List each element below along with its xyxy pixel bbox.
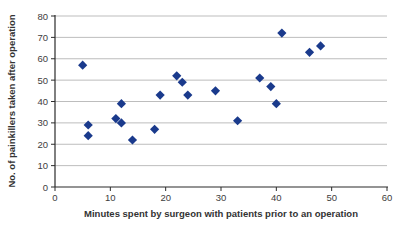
x-tick-label: 20 xyxy=(160,192,171,203)
data-point xyxy=(277,29,286,38)
data-point xyxy=(316,41,325,50)
y-tick-label: 80 xyxy=(37,11,48,22)
data-point xyxy=(272,99,281,108)
x-tick-label: 0 xyxy=(52,192,57,203)
chart-svg: 010203040506001020304050607080 xyxy=(0,0,406,233)
x-tick-label: 40 xyxy=(271,192,282,203)
y-tick-label: 50 xyxy=(37,75,48,86)
y-tick-label: 30 xyxy=(37,117,48,128)
x-tick-label: 10 xyxy=(105,192,116,203)
data-point xyxy=(255,73,264,82)
data-point xyxy=(178,78,187,87)
data-point xyxy=(233,116,242,125)
x-tick-label: 30 xyxy=(216,192,227,203)
data-point xyxy=(78,61,87,70)
y-tick-label: 0 xyxy=(43,182,48,193)
data-point xyxy=(172,71,181,80)
data-point xyxy=(156,90,165,99)
data-point xyxy=(84,120,93,129)
y-tick-label: 10 xyxy=(37,160,48,171)
data-point xyxy=(150,125,159,134)
y-tick-label: 70 xyxy=(37,32,48,43)
y-tick-label: 40 xyxy=(37,96,48,107)
x-tick-label: 60 xyxy=(382,192,393,203)
x-tick-label: 50 xyxy=(326,192,337,203)
scatter-chart: No. of painkillers taken after operation… xyxy=(0,0,406,233)
data-point xyxy=(211,86,220,95)
x-axis-title: Minutes spent by surgeon with patients p… xyxy=(55,208,387,219)
data-point xyxy=(183,90,192,99)
data-point xyxy=(266,82,275,91)
y-tick-label: 20 xyxy=(37,139,48,150)
data-point xyxy=(305,48,314,57)
data-point xyxy=(84,131,93,140)
data-point xyxy=(117,99,126,108)
y-tick-label: 60 xyxy=(37,53,48,64)
data-point xyxy=(128,135,137,144)
